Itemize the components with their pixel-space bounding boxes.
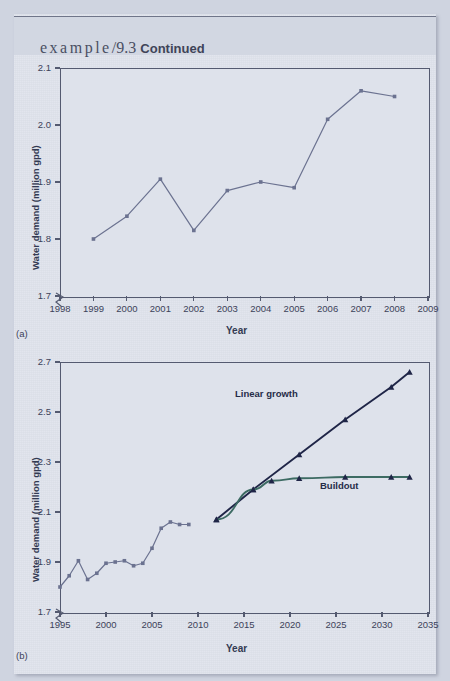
example-word: example [40,39,112,56]
series-marker [92,237,96,241]
example-header-text: example/9.3 Continued [40,39,205,57]
chart-b-x-axis-title: Year [226,643,247,654]
series-marker [141,561,145,565]
chart-a-series-svg [14,60,436,350]
chart-b: Water demand (million gpd) 1.71.92.12.32… [14,350,436,674]
series-marker [225,189,229,193]
chart-b-panel-label: (b) [16,650,28,661]
chart-a-panel-label: (a) [16,328,28,339]
series-marker [150,546,154,550]
series-marker [67,574,71,578]
chart-a-x-axis-title: Year [226,325,247,336]
chart-a: Water demand (million gpd) 1.71.81.92.02… [14,60,436,350]
series-marker [259,180,263,184]
y-axis-break-symbol [56,293,63,307]
series-marker [407,369,413,375]
series-marker [192,229,196,233]
series-line [93,91,394,239]
series-marker [95,571,99,575]
series-marker [86,578,90,582]
series-marker [159,526,163,530]
series-line [60,522,189,587]
series-marker [104,561,108,565]
annotation-linear-growth: Linear growth [235,388,298,399]
annotation-buildout: Buildout [320,480,359,491]
series-marker [292,186,296,190]
series-marker [187,523,191,527]
chart-b-series-svg [14,350,436,674]
series-marker [169,520,173,524]
series-marker [178,523,182,527]
series-marker [77,559,81,563]
series-line [216,477,409,520]
example-header-band: example/9.3 Continued [14,16,436,55]
series-marker [326,118,330,122]
example-number: 9.3 [116,39,136,56]
series-marker [125,214,129,218]
series-marker [359,89,363,93]
series-marker [58,585,62,589]
series-marker [123,559,127,563]
series-marker [113,560,117,564]
continued-label: Continued [140,41,204,56]
y-axis-break-symbol [56,609,63,623]
series-marker [159,177,163,181]
series-marker [132,564,136,568]
series-marker [393,95,397,99]
